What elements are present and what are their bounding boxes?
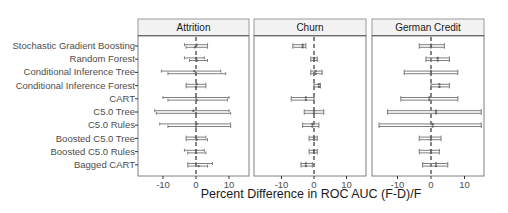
point-estimate bbox=[313, 59, 315, 61]
point-estimate bbox=[311, 125, 313, 127]
point-estimate bbox=[195, 112, 197, 114]
point-estimate bbox=[313, 152, 315, 154]
point-estimate bbox=[195, 96, 197, 98]
point-estimate bbox=[195, 149, 197, 151]
chart-canvas: Attrition-10010Churn-10010German Credit-… bbox=[0, 0, 508, 213]
point-estimate bbox=[195, 152, 197, 154]
point-estimate bbox=[305, 99, 307, 101]
point-estimate bbox=[430, 70, 432, 72]
point-estimate bbox=[193, 70, 195, 72]
point-estimate bbox=[195, 162, 197, 164]
point-estimate bbox=[301, 46, 303, 48]
point-estimate bbox=[428, 96, 430, 98]
point-estimate bbox=[430, 46, 432, 48]
point-estimate bbox=[435, 110, 437, 112]
point-estimate bbox=[318, 83, 320, 85]
point-estimate bbox=[314, 73, 316, 75]
point-estimate bbox=[430, 136, 432, 138]
point-estimate bbox=[318, 86, 320, 88]
point-estimate bbox=[313, 136, 315, 138]
x-axis-title: Percent Difference in ROC AUC (F-D)/F bbox=[138, 187, 484, 201]
facet-title: German Credit bbox=[395, 22, 461, 33]
point-estimate bbox=[435, 165, 437, 167]
point-estimate bbox=[195, 125, 197, 127]
point-estimate bbox=[305, 96, 307, 98]
point-estimate bbox=[313, 112, 315, 114]
point-estimate bbox=[195, 83, 197, 85]
point-estimate bbox=[195, 99, 197, 101]
point-estimate bbox=[313, 110, 315, 112]
point-estimate bbox=[430, 139, 432, 141]
facet-title: Churn bbox=[296, 22, 323, 33]
point-estimate bbox=[301, 44, 303, 46]
point-estimate bbox=[305, 165, 307, 167]
point-estimate bbox=[197, 165, 199, 167]
point-estimate bbox=[195, 139, 197, 141]
point-estimate bbox=[195, 57, 197, 59]
facet-panel: German Credit-10010 bbox=[372, 19, 484, 190]
point-estimate bbox=[438, 86, 440, 88]
facet-panel: Churn-10010 bbox=[254, 19, 366, 190]
point-estimate bbox=[194, 46, 196, 48]
point-estimate bbox=[430, 44, 432, 46]
point-estimate bbox=[431, 125, 433, 127]
point-estimate bbox=[428, 99, 430, 101]
point-estimate bbox=[435, 162, 437, 164]
point-estimate bbox=[437, 59, 439, 61]
point-estimate bbox=[195, 136, 197, 138]
point-estimate bbox=[192, 110, 194, 112]
facet-panel: Attrition-10010 bbox=[135, 19, 249, 190]
point-estimate bbox=[195, 73, 197, 75]
point-estimate bbox=[435, 112, 437, 114]
point-estimate bbox=[430, 152, 432, 154]
point-estimate bbox=[313, 57, 315, 59]
point-estimate bbox=[431, 123, 433, 125]
forest-plot-figure: Stochastic Gradient Boosting Random Fore… bbox=[0, 0, 508, 213]
point-estimate bbox=[430, 149, 432, 151]
point-estimate bbox=[313, 139, 315, 141]
point-estimate bbox=[314, 70, 316, 72]
facet-title: Attrition bbox=[177, 22, 211, 33]
point-estimate bbox=[313, 149, 315, 151]
point-estimate bbox=[196, 59, 198, 61]
point-estimate bbox=[438, 83, 440, 85]
point-estimate bbox=[437, 57, 439, 59]
point-estimate bbox=[430, 73, 432, 75]
point-estimate bbox=[195, 44, 197, 46]
point-estimate bbox=[311, 123, 313, 125]
point-estimate bbox=[195, 123, 197, 125]
point-estimate bbox=[305, 162, 307, 164]
point-estimate bbox=[195, 86, 197, 88]
